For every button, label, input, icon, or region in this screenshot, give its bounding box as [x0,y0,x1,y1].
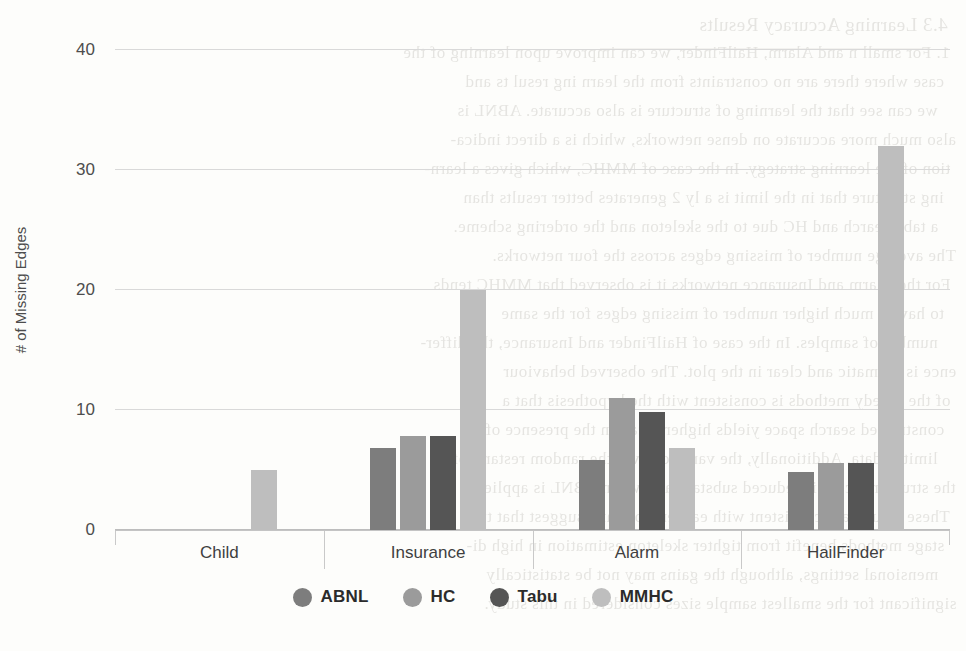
legend-marker-icon [592,588,611,607]
legend-item[interactable]: HC [403,587,456,607]
x-axis-separator [949,531,950,545]
y-axis-tick-label: 30 [76,160,95,180]
bar [818,463,844,530]
x-axis-separator [533,531,534,569]
x-axis-separator [115,531,116,545]
legend-item[interactable]: Tabu [490,587,558,607]
bar [579,460,605,530]
chart-legend: ABNLHCTabuMMHC [0,587,966,607]
x-axis-separator [741,531,742,569]
y-axis-tick-labels: 010203040 [0,0,105,651]
bar-group [324,50,533,530]
bar-group [741,50,950,530]
legend-marker-icon [403,588,422,607]
bar [848,463,874,530]
y-axis-tick-label: 40 [76,40,95,60]
legend-marker-icon [293,588,312,607]
bar [251,470,277,530]
bar [669,448,695,530]
legend-label: Tabu [518,587,558,607]
legend-item[interactable]: ABNL [293,587,369,607]
y-axis-tick-label: 10 [76,400,95,420]
bar [400,436,426,530]
y-axis-tick-label: 20 [76,280,95,300]
bar [878,146,904,530]
y-axis-tick-label: 0 [86,520,95,540]
x-axis-category-label: Insurance [391,543,466,563]
bar-group [115,50,324,530]
bar [430,436,456,530]
x-axis-separator [324,531,325,569]
plot-area [115,50,950,530]
bar [460,290,486,530]
bar [639,412,665,530]
legend-item[interactable]: MMHC [592,587,674,607]
x-axis-category-label: Child [200,543,239,563]
legend-label: ABNL [321,587,369,607]
bar-chart: # of Missing Edges 010203040 ChildInsura… [0,0,966,651]
bar [788,472,814,530]
bar-group [533,50,742,530]
legend-marker-icon [490,588,509,607]
x-axis: ChildInsuranceAlarmHailFinder [115,530,950,573]
legend-label: HC [431,587,456,607]
bar [370,448,396,530]
x-axis-category-label: HailFinder [807,543,884,563]
bar [609,398,635,530]
legend-label: MMHC [620,587,674,607]
x-axis-category-label: Alarm [615,543,659,563]
